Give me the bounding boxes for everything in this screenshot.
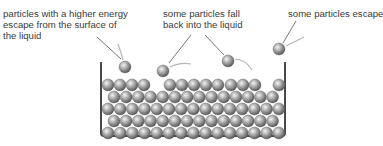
escaping-particle — [119, 61, 131, 73]
liquid-particle — [230, 115, 242, 127]
liquid-particle — [126, 103, 138, 115]
falling-back-particle — [222, 55, 234, 67]
liquid-particle — [132, 91, 144, 103]
liquid-particle — [132, 115, 144, 127]
liquid-particle — [261, 103, 273, 115]
leader-line — [205, 35, 224, 55]
liquid-particle — [139, 127, 151, 139]
liquid-particle — [114, 127, 126, 139]
surface-particle — [200, 79, 212, 91]
liquid-particle — [163, 103, 175, 115]
leader-line — [283, 21, 296, 43]
liquid-particle — [145, 91, 157, 103]
escaping-particle — [273, 43, 285, 55]
liquid-particle — [151, 103, 163, 115]
liquid-particle — [187, 103, 199, 115]
liquid-particle — [212, 103, 224, 115]
falling-back-particle — [157, 65, 169, 77]
liquid-particle — [114, 103, 126, 115]
liquid-particle — [102, 103, 114, 115]
liquid-particle — [181, 115, 193, 127]
arrow-up-icon — [118, 44, 123, 60]
liquid-particle — [267, 91, 279, 103]
liquid-particle — [126, 127, 138, 139]
liquid-particle — [248, 103, 260, 115]
surface-particle — [273, 79, 285, 91]
liquid-particle — [120, 91, 132, 103]
surface-particle — [164, 79, 176, 91]
surface-particle — [225, 79, 237, 91]
surface-particle — [126, 79, 138, 91]
liquid-particle — [236, 127, 248, 139]
liquid-particle — [108, 115, 120, 127]
liquid-particle — [157, 115, 169, 127]
liquid-particle — [224, 103, 236, 115]
liquid-particle — [200, 103, 212, 115]
liquid-particle — [254, 91, 266, 103]
liquid-particle — [218, 115, 230, 127]
liquid-particle — [206, 91, 218, 103]
liquid-particle — [248, 127, 260, 139]
liquid-particle — [187, 127, 199, 139]
liquid-particle — [236, 103, 248, 115]
leader-line — [97, 37, 121, 59]
surface-particle — [138, 79, 150, 91]
liquid-particle — [102, 127, 114, 139]
surface-particle — [176, 79, 188, 91]
liquid-particle — [206, 115, 218, 127]
liquid-particle — [273, 103, 285, 115]
liquid-particle — [139, 103, 151, 115]
liquid-particle — [261, 127, 273, 139]
liquid-particle — [151, 127, 163, 139]
liquid-particle — [242, 91, 254, 103]
liquid-particle — [108, 91, 120, 103]
liquid-particle — [193, 115, 205, 127]
arrow-curve-icon — [170, 63, 191, 67]
leader-lines — [97, 21, 296, 63]
liquid-particle — [230, 91, 242, 103]
surface-particle — [237, 79, 249, 91]
liquid-particle — [145, 115, 157, 127]
surface-particle — [249, 79, 261, 91]
arrow-escape-icon — [286, 37, 304, 46]
liquid-particle — [254, 115, 266, 127]
liquid-particle — [200, 127, 212, 139]
surface-particle — [188, 79, 200, 91]
liquid-particle — [120, 115, 132, 127]
liquid-particle — [157, 91, 169, 103]
liquid-particle — [181, 91, 193, 103]
liquid-particle — [193, 91, 205, 103]
liquid-particle — [163, 127, 175, 139]
liquid-particle — [267, 115, 279, 127]
leader-line — [169, 35, 191, 63]
liquid-particle — [273, 127, 285, 139]
arrow-curve-icon — [235, 59, 252, 70]
liquid-particle — [218, 91, 230, 103]
surface-particle — [102, 79, 114, 91]
liquid-particle — [224, 127, 236, 139]
liquid-particle — [175, 103, 187, 115]
liquid-particle — [169, 115, 181, 127]
liquid-particle — [169, 91, 181, 103]
surface-particle — [212, 79, 224, 91]
liquid-particle — [242, 115, 254, 127]
liquid-particle — [212, 127, 224, 139]
liquid-particle — [175, 127, 187, 139]
surface-particle — [114, 79, 126, 91]
particles — [102, 43, 285, 139]
